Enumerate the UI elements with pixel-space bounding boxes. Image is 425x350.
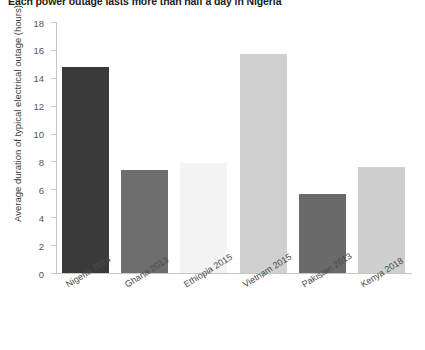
y-axis-tick-label: 10: [33, 129, 44, 140]
y-axis-tick-label: 6: [39, 184, 44, 195]
y-axis-title: Average duration of typical electrical o…: [12, 0, 23, 239]
y-axis-tick: 0: [51, 273, 56, 274]
y-axis-tick-label: 4: [39, 212, 44, 223]
plot-area: 024681012141618: [56, 22, 411, 273]
bar: [62, 67, 109, 273]
x-axis-line: [56, 273, 412, 274]
y-axis-tick-label: 2: [39, 240, 44, 251]
y-axis-tick: 18: [51, 22, 56, 23]
y-axis-tick: 4: [51, 217, 56, 218]
y-axis-tick: 8: [51, 161, 56, 162]
y-axis-tick: 2: [51, 245, 56, 246]
chart-title: Each power outage lasts more than half a…: [8, 0, 281, 7]
y-axis-tick: 12: [51, 106, 56, 107]
y-axis-tick-label: 14: [33, 73, 44, 84]
y-axis-tick-label: 12: [33, 101, 44, 112]
y-axis-tick-label: 16: [33, 45, 44, 56]
bar: [240, 54, 287, 273]
y-axis-tick-label: 8: [39, 156, 44, 167]
y-axis-tick: 6: [51, 189, 56, 190]
y-axis-tick: 16: [51, 50, 56, 51]
y-axis-tick-label: 0: [39, 268, 44, 279]
y-axis-tick: 10: [51, 134, 56, 135]
y-axis-tick: 14: [51, 78, 56, 79]
y-axis-tick-label: 18: [33, 17, 44, 28]
